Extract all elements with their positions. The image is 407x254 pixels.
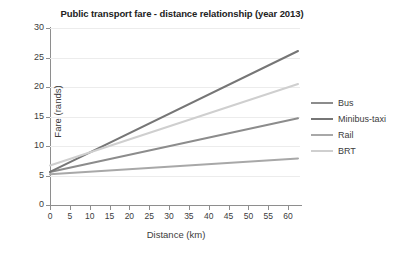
legend-item-bus[interactable]: Bus [311,95,407,111]
x-tick-mark [169,206,170,210]
x-tick-mark [70,206,71,210]
legend-item-brt[interactable]: BRT [311,143,407,159]
x-tick-label: 10 [80,211,100,221]
series-line-brt [50,84,298,165]
y-tick: 15 [16,112,44,121]
x-tick-label: 20 [119,211,139,221]
x-tick-label: 55 [258,211,278,221]
y-tick: 5 [16,171,44,180]
x-tick-mark [248,206,249,210]
x-tick-label: 5 [60,211,80,221]
y-tick: 20 [16,82,44,91]
series-lines [50,28,300,205]
x-tick-mark [268,206,269,210]
x-tick-mark [129,206,130,210]
x-axis-line [50,205,302,206]
y-tick: 25 [16,53,44,62]
chart-container: Public transport fare - distance relatio… [0,0,407,254]
x-axis-title: Distance (km) [50,229,302,240]
x-tick-mark [90,206,91,210]
x-tick-label: 45 [219,211,239,221]
y-tick: 10 [16,141,44,150]
x-tick-label: 35 [179,211,199,221]
x-tick-label: 25 [139,211,159,221]
series-line-bus [50,118,298,172]
x-tick-label: 50 [238,211,258,221]
legend-label: Rail [338,130,354,140]
y-tick-label: 20 [20,82,44,91]
x-tick-mark [288,206,289,210]
y-tick-label: 0 [20,200,44,209]
chart-title: Public transport fare - distance relatio… [52,8,312,19]
y-tick-label: 5 [20,171,44,180]
legend-swatch-icon [311,134,333,137]
x-tick-label: 0 [40,211,60,221]
legend-swatch-icon [311,150,333,153]
x-tick-label: 60 [278,211,298,221]
x-tick-mark [50,206,51,210]
legend-item-rail[interactable]: Rail [311,127,407,143]
x-tick-mark [229,206,230,210]
y-tick-label: 15 [20,112,44,121]
legend-label: BRT [338,146,356,156]
x-tick-label: 15 [100,211,120,221]
chart-legend: BusMinibus-taxiRailBRT [311,95,407,159]
y-tick-label: 30 [20,23,44,32]
legend-swatch-icon [311,118,333,121]
y-tick-label: 25 [20,53,44,62]
x-tick-mark [149,206,150,210]
y-axis-title: Fare (rands) [52,57,63,167]
y-tick: 0 [16,200,44,209]
legend-label: Bus [338,98,354,108]
x-tick-mark [110,206,111,210]
legend-label: Minibus-taxi [338,114,386,124]
legend-item-minibus-taxi[interactable]: Minibus-taxi [311,111,407,127]
series-line-rail [50,158,298,174]
plot-area: Fare (rands) [50,28,300,205]
x-tick-label: 30 [159,211,179,221]
x-tick-mark [209,206,210,210]
legend-swatch-icon [311,102,333,105]
y-tick-label: 10 [20,141,44,150]
x-tick-mark [189,206,190,210]
y-tick: 30 [16,23,44,32]
x-tick-label: 40 [199,211,219,221]
